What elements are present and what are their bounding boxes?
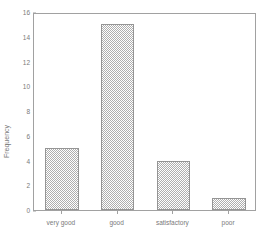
y-tick-label: 2 [26, 183, 30, 190]
y-tick-label: 8 [26, 109, 30, 116]
plot-area [33, 13, 256, 211]
y-axis-label: Frequency [3, 112, 10, 172]
x-axis-tick-marks [33, 211, 256, 215]
x-tick-mark [228, 211, 229, 214]
x-tick-label: poor [222, 220, 235, 227]
y-tick-label: 10 [23, 84, 30, 91]
x-tick-mark [172, 211, 173, 214]
x-tick-label: satisfactory [156, 220, 189, 227]
y-tick-label: 12 [23, 59, 30, 66]
bar [101, 24, 134, 210]
x-axis-tick-labels: very goodgoodsatisfactorypoor [33, 220, 256, 232]
bar [157, 161, 190, 211]
x-tick-mark [117, 211, 118, 214]
y-tick-label: 4 [26, 158, 30, 165]
x-tick-label: very good [47, 220, 76, 227]
y-tick-label: 14 [23, 35, 30, 42]
bar [212, 198, 245, 210]
frequency-bar-chart: Frequency 0246810121416 very goodgoodsat… [0, 0, 271, 241]
y-tick-label: 0 [26, 208, 30, 215]
x-tick-label: good [109, 220, 123, 227]
x-tick-mark [61, 211, 62, 214]
y-tick-label: 16 [23, 10, 30, 17]
y-tick-label: 6 [26, 134, 30, 141]
y-axis-tick-labels: 0246810121416 [14, 13, 30, 211]
bar [45, 148, 78, 210]
